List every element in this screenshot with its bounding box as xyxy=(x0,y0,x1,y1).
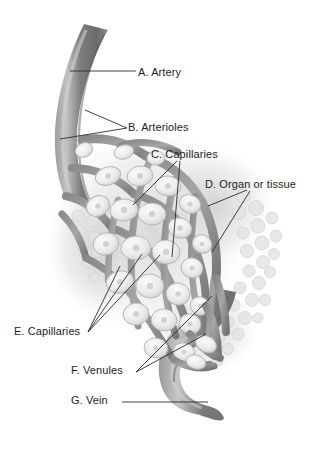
anatomy-figure: A. Artery B. Arterioles C. Capillaries D… xyxy=(0,0,324,453)
label-f-venules: F. Venules xyxy=(71,364,123,377)
label-e-capillaries: E. Capillaries xyxy=(14,325,80,338)
leader-arterioles-1 xyxy=(85,110,127,128)
label-c-capillaries: C. Capillaries xyxy=(151,148,218,161)
label-b-arterioles: B. Arterioles xyxy=(128,121,189,134)
label-g-vein: G. Vein xyxy=(71,394,108,407)
label-d-organ-or-tissue: D. Organ or tissue xyxy=(205,178,296,191)
label-a-artery: A. Artery xyxy=(138,66,181,79)
